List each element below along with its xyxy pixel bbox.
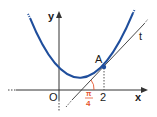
x-axis-label: x (135, 91, 142, 103)
angle-arc (91, 80, 94, 90)
origin-label: O (49, 91, 58, 103)
angle-denominator: 4 (86, 99, 91, 108)
tangent-dotted-top (144, 19, 148, 24)
point-a-label: A (95, 53, 103, 65)
curve-dotted-left (28, 14, 30, 18)
y-axis-arrow-icon (56, 11, 62, 18)
curve-dotted-right (133, 9, 135, 13)
y-axis-label: y (48, 10, 55, 22)
x-axis-arrow-icon (141, 87, 148, 93)
tangent-dotted-bottom (66, 100, 72, 107)
point-a (102, 65, 106, 69)
parabola-curve (30, 13, 133, 78)
graph-figure: y x O A 2 t π 4 (0, 0, 157, 117)
tangent-label: t (139, 30, 142, 42)
tangent-line (72, 24, 144, 100)
angle-numerator: π (86, 90, 92, 97)
x-tick-2-label: 2 (100, 91, 106, 103)
